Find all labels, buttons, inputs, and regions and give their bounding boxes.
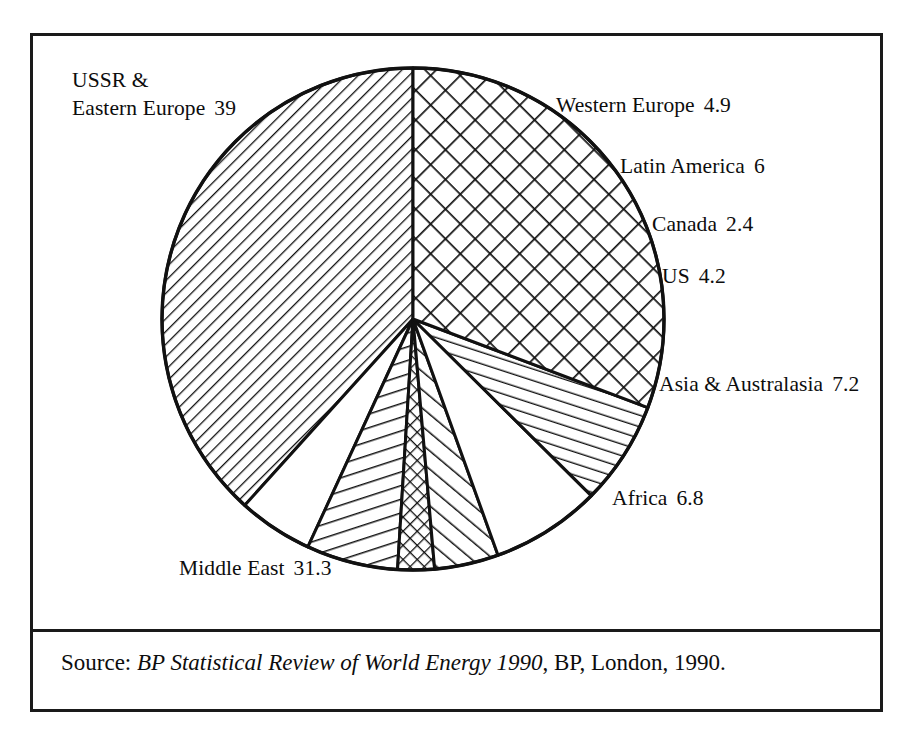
slice-label-latin-america: Latin America6: [620, 152, 765, 180]
slice-label-text: US: [662, 264, 690, 288]
source-divider: [33, 629, 880, 632]
source-suffix: , BP, London, 1990.: [542, 650, 725, 675]
slice-value: 39: [214, 96, 236, 120]
slice-label-ussr-eastern-europe: USSR & Eastern Europe39: [72, 66, 236, 123]
source-title: BP Statistical Review of World Energy 19…: [137, 650, 542, 675]
source-prefix: Source:: [61, 650, 131, 675]
slice-label-text: Western Europe: [556, 93, 695, 117]
slice-value: 7.2: [832, 372, 859, 396]
slice-value: 31.3: [294, 556, 332, 580]
slice-label-line-2: Eastern Europe39: [72, 94, 236, 122]
slice-label-text: Asia & Australasia: [659, 372, 823, 396]
slice-label-western-europe: Western Europe4.9: [556, 91, 731, 119]
figure-page: USSR & Eastern Europe 39Western Europe 4…: [0, 0, 898, 735]
slice-value: 4.2: [699, 264, 726, 288]
slice-label-asia-australasia: Asia & Australasia7.2: [659, 370, 859, 398]
slice-value: 6.8: [677, 486, 704, 510]
slice-label-line-1: USSR &: [72, 66, 236, 94]
slice-label-text: Africa: [612, 486, 668, 510]
slice-value: 4.9: [704, 93, 731, 117]
slice-label-text: Middle East: [179, 556, 285, 580]
slice-value: 2.4: [726, 212, 753, 236]
slice-label-canada: Canada2.4: [652, 210, 753, 238]
slice-label-africa: Africa6.8: [612, 484, 704, 512]
source-caption: Source: BP Statistical Review of World E…: [61, 650, 726, 676]
slice-label-middle-east: Middle East31.3: [179, 554, 332, 582]
slice-value: 6: [754, 154, 765, 178]
slice-label-text: Canada: [652, 212, 717, 236]
slice-label-text: Latin America: [620, 154, 745, 178]
pie-slices: USSR & Eastern Europe 39Western Europe 4…: [162, 68, 664, 570]
slice-label-us: US4.2: [662, 262, 726, 290]
